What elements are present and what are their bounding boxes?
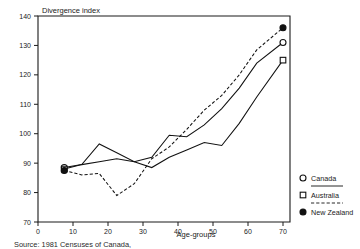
legend-label-new-zealand: New Zealand [311, 208, 353, 217]
plot-frame [38, 16, 290, 222]
source-caption: Source: 1981 Censuses of Canada, [14, 240, 131, 249]
divergence-index-chart: 708090100110120130140 010203040506070 Di… [0, 0, 360, 249]
y-tick-label: 70 [23, 219, 31, 226]
x-tick-label: 20 [104, 228, 112, 235]
y-tick-label: 140 [19, 13, 31, 20]
start-marker-new-zealand [61, 168, 67, 174]
series-line-canada [64, 42, 283, 167]
y-tick-label: 80 [23, 189, 31, 196]
y-tick-label: 130 [19, 42, 31, 49]
legend-marker-new-zealand [300, 209, 306, 215]
y-tick-label: 120 [19, 71, 31, 78]
series-line-australia [64, 60, 283, 169]
chart-svg: 708090100110120130140 010203040506070 Di… [0, 0, 360, 249]
legend-marker-australia [300, 192, 306, 198]
legend-marker-canada [300, 175, 306, 181]
y-tick-label: 90 [23, 160, 31, 167]
series-markers [61, 25, 286, 174]
x-tick-label: 30 [139, 228, 147, 235]
y-axis-ticks: 708090100110120130140 [19, 13, 38, 226]
plot-frame-rect [38, 16, 290, 222]
x-tick-label: 0 [36, 228, 40, 235]
legend-label-canada: Canada [311, 174, 336, 183]
y-tick-label: 110 [20, 101, 31, 108]
end-marker-australia [280, 57, 286, 63]
x-axis-ticks: 010203040506070 [36, 222, 287, 235]
y-tick-label: 100 [19, 130, 31, 137]
x-tick-label: 10 [69, 228, 77, 235]
end-marker-canada [280, 39, 286, 45]
legend-label-australia: Australia [311, 191, 339, 200]
series-line-new-zealand [64, 28, 283, 196]
legend: CanadaAustraliaNew Zealand [300, 174, 353, 217]
series-group [64, 28, 283, 196]
x-tick-label: 60 [244, 228, 252, 235]
x-tick-label: 70 [279, 228, 287, 235]
x-axis-title: Age-groups [177, 230, 216, 239]
y-axis-title: Divergence index [42, 6, 100, 15]
end-marker-new-zealand [280, 25, 286, 31]
